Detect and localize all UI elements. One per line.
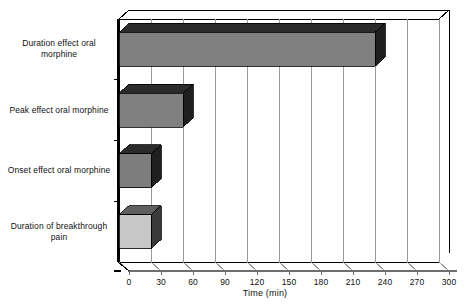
bar-3-front-face: [119, 215, 151, 249]
floor-edge-210: [343, 262, 353, 271]
floor-edge-30: [151, 262, 161, 271]
bar-1-top-face: [119, 84, 193, 93]
category-label-line2: pain: [4, 232, 114, 243]
bar-2-front-face: [119, 154, 151, 188]
x-tick-label-270: 270: [402, 277, 432, 287]
floor-edge-90: [215, 262, 225, 271]
category-label-line1: Onset effect oral morphine: [4, 165, 114, 176]
bar-0-top-face: [119, 23, 385, 32]
x-axis-title: Time (min): [185, 288, 345, 298]
bar-0-front-face: [119, 32, 375, 66]
category-label-onset-effect-oral-morphine: Onset effect oral morphine: [4, 165, 114, 176]
category-label-line1: Duration effect oral: [4, 38, 114, 49]
floor-edge-150: [279, 262, 289, 271]
category-label-line1: Peak effect oral morphine: [4, 105, 114, 116]
floor-edge-60: [183, 262, 193, 271]
floor-edge-180: [311, 262, 321, 271]
category-label-line2: morphine: [4, 49, 114, 60]
floor-edge-270: [407, 262, 417, 271]
x-tick-label-120: 120: [242, 277, 272, 287]
origin-diagonal: [118, 262, 129, 271]
top-left-diagonal: [119, 10, 129, 19]
category-label-peak-effect-oral-morphine: Peak effect oral morphine: [4, 105, 114, 116]
floor-edge-300: [439, 262, 449, 271]
bar-1: [119, 84, 193, 127]
bar-2: [119, 145, 161, 188]
x-tick-label-240: 240: [370, 277, 400, 287]
bar-3: [119, 206, 161, 249]
x-tick-label-0: 0: [114, 277, 144, 287]
x-tick-label-210: 210: [338, 277, 368, 287]
x-tick-label-60: 60: [178, 277, 208, 287]
top-right-diagonal: [439, 10, 449, 19]
x-tick-label-30: 30: [146, 277, 176, 287]
x-tick-label-180: 180: [306, 277, 336, 287]
bar-1-front-face: [119, 93, 183, 127]
x-tick-label-90: 90: [210, 277, 240, 287]
floor-edge-120: [247, 262, 257, 271]
bar-0: [119, 23, 385, 66]
category-label-line1: Duration of breakthrough: [4, 221, 114, 232]
x-tick-label-150: 150: [274, 277, 304, 287]
category-label-duration-effect-oral-morphine: Duration effect oral morphine: [4, 38, 114, 60]
floor-edge-240: [375, 262, 385, 271]
x-tick-label-300: 300: [434, 277, 464, 287]
category-label-duration-of-breakthrough-pain: Duration of breakthrough pain: [4, 221, 114, 243]
value-axis: [114, 262, 457, 271]
bar-chart: Duration effect oral morphine Peak effec…: [0, 0, 468, 307]
